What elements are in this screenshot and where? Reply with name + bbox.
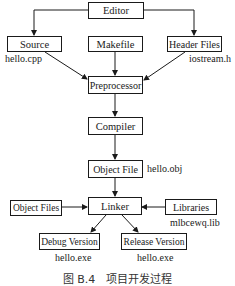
node-makefile: Makefile [88,36,143,52]
node-preprocessor: Preprocessor [88,76,143,94]
label-header-file: iostream.h [189,53,231,64]
label-release-exe: hello.exe [137,252,173,263]
label-object-file: hello.obj [147,163,182,174]
label-debug-exe: hello.exe [55,252,91,263]
node-header-files: Header Files [167,36,222,52]
node-libraries: Libraries [165,199,217,215]
label-source-file: hello.cpp [5,53,42,64]
node-compiler: Compiler [88,117,143,135]
node-object-files: Object Files [10,200,62,216]
node-editor: Editor [88,2,144,19]
node-linker: Linker [88,197,142,215]
node-source: Source [7,36,62,52]
node-debug-version: Debug Version [39,233,100,250]
node-release-version: Release Version [121,233,187,250]
figure-caption: 图 B.4 项目开发过程 [0,270,235,286]
node-object-file: Object File [88,160,143,178]
label-library-file: mlbcewq.lib [170,217,220,228]
